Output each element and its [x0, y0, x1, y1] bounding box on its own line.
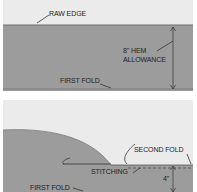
folded-fabric: [3, 130, 111, 165]
bottom-diagram-panel: SECOND FOLD STITCHING 4" FIRST FOLD: [3, 100, 193, 192]
top-diagram-panel: RAW EDGE 8" HEM ALLOWANCE FIRST FOLD: [3, 0, 193, 91]
first-fold-label: FIRST FOLD: [60, 77, 100, 85]
hem-allowance-label-line1: 8" HEM: [123, 47, 146, 55]
first-fold-label: FIRST FOLD: [30, 184, 70, 192]
second-fold-leader: [187, 154, 191, 164]
raw-edge-label: RAW EDGE: [49, 10, 86, 18]
four-inch-label: 4": [163, 175, 169, 183]
raw-edge-leader: [37, 15, 49, 23]
second-fold-label: SECOND FOLD: [134, 146, 183, 154]
stitching-label: STITCHING: [91, 168, 128, 176]
hem-allowance-label-line2: ALLOWANCE: [123, 56, 166, 64]
